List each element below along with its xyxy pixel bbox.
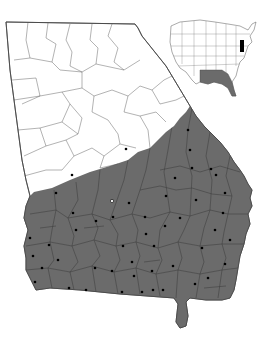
dot-marker — [194, 283, 197, 286]
dot-marker — [195, 199, 198, 202]
dot-marker — [210, 168, 213, 171]
dot-marker — [85, 289, 88, 292]
dot-marker — [71, 174, 74, 177]
dot-marker — [68, 287, 71, 290]
dot-marker — [145, 233, 148, 236]
dot-marker — [29, 237, 32, 240]
dot-marker — [222, 212, 225, 215]
dot-marker — [179, 217, 182, 220]
dot-marker — [34, 281, 37, 284]
dot-marker — [153, 245, 156, 248]
dot-marker — [214, 229, 217, 232]
dot-marker — [152, 289, 155, 292]
dot-marker — [224, 192, 227, 195]
dot-marker — [133, 275, 136, 278]
dot-marker — [151, 270, 154, 273]
dot-marker — [207, 277, 210, 280]
dot-marker — [112, 216, 115, 219]
dot-marker — [224, 263, 227, 266]
dot-marker — [172, 265, 175, 268]
dot-marker — [164, 225, 167, 228]
open-dot-marker — [110, 199, 113, 202]
dot-marker — [75, 229, 78, 232]
dot-marker — [48, 244, 51, 247]
dot-marker — [95, 220, 98, 223]
georgia-map — [0, 0, 274, 338]
dot-marker — [125, 148, 128, 151]
dot-marker — [144, 216, 147, 219]
dot-marker — [229, 239, 232, 242]
dot-marker — [41, 267, 44, 270]
dot-marker — [201, 247, 204, 250]
dot-marker — [128, 202, 131, 205]
dot-marker — [191, 167, 194, 170]
dot-marker — [141, 291, 144, 294]
dot-marker — [131, 261, 134, 264]
dot-marker — [57, 259, 60, 262]
dot-marker — [55, 192, 58, 195]
dot-marker — [122, 245, 125, 248]
dot-marker — [174, 177, 177, 180]
dot-marker — [94, 267, 97, 270]
dot-marker — [32, 255, 35, 258]
dot-marker — [111, 270, 114, 273]
dot-marker — [215, 174, 218, 177]
dot-marker — [165, 195, 168, 198]
dot-marker — [189, 149, 192, 152]
dot-marker — [72, 212, 75, 215]
us-highlight-marker — [240, 40, 244, 52]
dot-marker — [162, 289, 165, 292]
dot-marker — [121, 291, 124, 294]
dot-marker — [187, 129, 190, 132]
